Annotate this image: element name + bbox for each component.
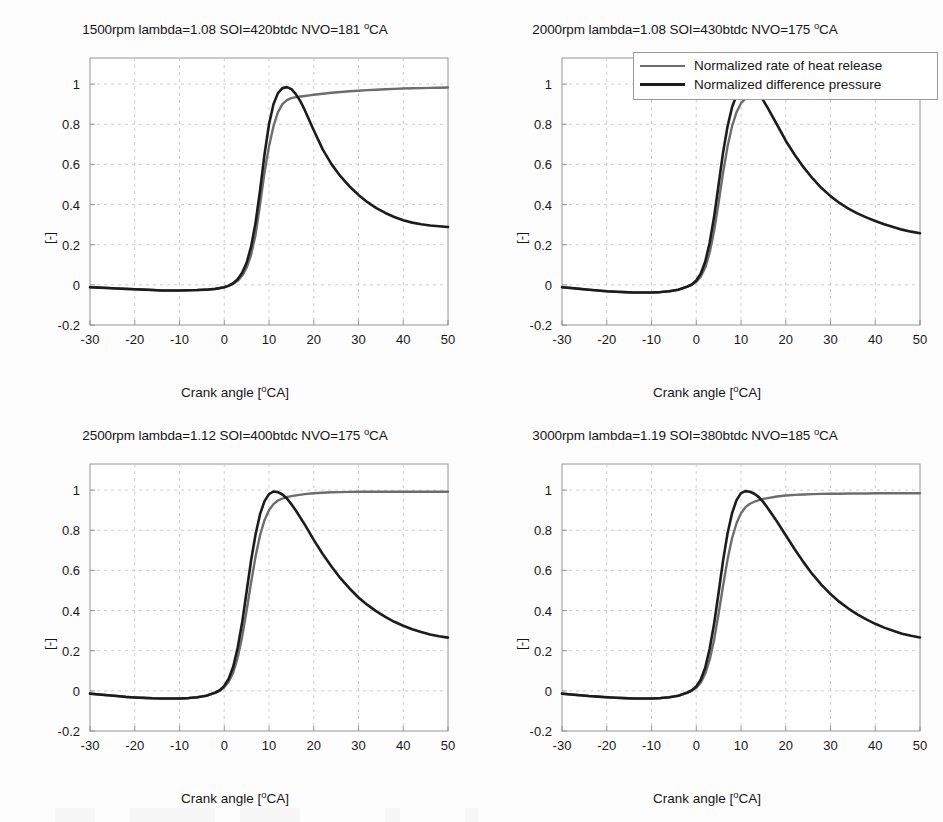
svg-text:-10: -10 xyxy=(642,332,661,347)
svg-text:0.8: 0.8 xyxy=(534,117,552,132)
svg-text:1: 1 xyxy=(545,77,552,92)
svg-text:-0.2: -0.2 xyxy=(530,724,552,739)
x-axis-label: Crank angle [oCA] xyxy=(472,791,942,806)
svg-text:0: 0 xyxy=(693,332,700,347)
svg-text:-20: -20 xyxy=(125,332,144,347)
svg-text:0: 0 xyxy=(221,332,228,347)
svg-text:0.2: 0.2 xyxy=(62,238,80,253)
svg-text:30: 30 xyxy=(351,332,365,347)
svg-text:-0.2: -0.2 xyxy=(58,318,80,333)
svg-text:20: 20 xyxy=(779,738,793,753)
legend-item-difference-pressure: Normalized difference pressure xyxy=(640,75,930,94)
svg-text:0: 0 xyxy=(693,738,700,753)
legend-label-difference-pressure: Normalized difference pressure xyxy=(694,77,881,92)
x-axis-label: Crank angle [oCA] xyxy=(0,385,470,400)
svg-text:0: 0 xyxy=(73,278,80,293)
svg-text:10: 10 xyxy=(734,738,748,753)
svg-text:50: 50 xyxy=(441,738,455,753)
svg-text:0.2: 0.2 xyxy=(62,644,80,659)
svg-text:10: 10 xyxy=(262,738,276,753)
plot-area-2500rpm: -30-20-100102030405010.80.60.40.20-0.2 xyxy=(0,428,470,788)
svg-text:0.8: 0.8 xyxy=(62,117,80,132)
legend-swatch-heat-release xyxy=(640,65,685,67)
svg-text:20: 20 xyxy=(307,332,321,347)
svg-text:0.4: 0.4 xyxy=(62,198,80,213)
legend-label-heat-release: Normalized rate of heat release xyxy=(694,58,882,73)
panel-1500rpm: 1500rpm lambda=1.08 SOI=420btdc NVO=181 … xyxy=(0,22,470,412)
svg-text:-10: -10 xyxy=(170,332,189,347)
svg-text:30: 30 xyxy=(351,738,365,753)
svg-text:30: 30 xyxy=(823,738,837,753)
legend-swatch-difference-pressure xyxy=(640,83,685,86)
y-axis-label: [-] xyxy=(514,638,529,650)
svg-text:-20: -20 xyxy=(597,738,616,753)
legend: Normalized rate of heat release Normaliz… xyxy=(633,52,938,100)
svg-text:0.8: 0.8 xyxy=(62,523,80,538)
svg-text:0: 0 xyxy=(545,684,552,699)
svg-text:-30: -30 xyxy=(553,738,572,753)
svg-text:-10: -10 xyxy=(642,738,661,753)
svg-text:0.6: 0.6 xyxy=(534,563,552,578)
figure-canvas: 1500rpm lambda=1.08 SOI=420btdc NVO=181 … xyxy=(0,0,943,822)
svg-text:1: 1 xyxy=(545,483,552,498)
y-axis-label: [-] xyxy=(42,638,57,650)
svg-text:-30: -30 xyxy=(553,332,572,347)
svg-text:-20: -20 xyxy=(125,738,144,753)
svg-text:0.4: 0.4 xyxy=(534,198,552,213)
svg-text:40: 40 xyxy=(868,738,882,753)
x-axis-label: Crank angle [oCA] xyxy=(0,791,470,806)
panel-3000rpm: 3000rpm lambda=1.19 SOI=380btdc NVO=185 … xyxy=(472,428,942,818)
y-axis-label: [-] xyxy=(42,232,57,244)
svg-text:0: 0 xyxy=(545,278,552,293)
svg-text:1: 1 xyxy=(73,483,80,498)
x-axis-label: Crank angle [oCA] xyxy=(472,385,942,400)
y-axis-label: [-] xyxy=(514,232,529,244)
svg-text:0: 0 xyxy=(221,738,228,753)
svg-text:0.6: 0.6 xyxy=(534,157,552,172)
svg-text:40: 40 xyxy=(868,332,882,347)
svg-text:10: 10 xyxy=(262,332,276,347)
svg-text:0.8: 0.8 xyxy=(534,523,552,538)
svg-text:-0.2: -0.2 xyxy=(58,724,80,739)
svg-text:0.4: 0.4 xyxy=(534,604,552,619)
plot-area-3000rpm: -30-20-100102030405010.80.60.40.20-0.2 xyxy=(472,428,942,788)
svg-text:0.2: 0.2 xyxy=(534,238,552,253)
svg-text:0.6: 0.6 xyxy=(62,157,80,172)
panel-2500rpm: 2500rpm lambda=1.12 SOI=400btdc NVO=175 … xyxy=(0,428,470,818)
svg-text:50: 50 xyxy=(913,738,927,753)
panel-2000rpm: 2000rpm lambda=1.08 SOI=430btdc NVO=175 … xyxy=(472,22,942,412)
svg-text:-30: -30 xyxy=(81,738,100,753)
svg-text:-0.2: -0.2 xyxy=(530,318,552,333)
scan-artifact xyxy=(0,808,943,822)
svg-text:40: 40 xyxy=(396,332,410,347)
svg-text:50: 50 xyxy=(441,332,455,347)
svg-text:0.4: 0.4 xyxy=(62,604,80,619)
svg-text:-20: -20 xyxy=(597,332,616,347)
svg-text:-30: -30 xyxy=(81,332,100,347)
plot-area-1500rpm: -30-20-100102030405010.80.60.40.20-0.2 xyxy=(0,22,470,382)
svg-text:40: 40 xyxy=(396,738,410,753)
svg-text:30: 30 xyxy=(823,332,837,347)
svg-text:1: 1 xyxy=(73,77,80,92)
svg-text:0.6: 0.6 xyxy=(62,563,80,578)
svg-text:0.2: 0.2 xyxy=(534,644,552,659)
svg-text:10: 10 xyxy=(734,332,748,347)
svg-text:50: 50 xyxy=(913,332,927,347)
svg-text:0: 0 xyxy=(73,684,80,699)
legend-item-heat-release: Normalized rate of heat release xyxy=(640,56,930,75)
svg-text:-10: -10 xyxy=(170,738,189,753)
svg-text:20: 20 xyxy=(307,738,321,753)
svg-text:20: 20 xyxy=(779,332,793,347)
